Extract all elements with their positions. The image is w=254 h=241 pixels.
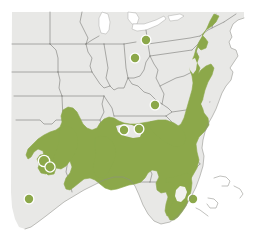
- range-map-figure: northern Ohiocentral Indianaeastern Kent…: [0, 0, 254, 241]
- range-map-canvas: northern Ohiocentral Indianaeastern Kent…: [0, 0, 254, 241]
- isolated-point-ohio-north: northern Ohio: [141, 35, 152, 46]
- point-marker: [25, 195, 33, 203]
- isolated-point-texas-hill-b: central Texas: [44, 161, 55, 172]
- isolated-point-tennessee-south: southern Tennessee: [119, 125, 130, 136]
- point-marker: [151, 101, 159, 109]
- isolated-point-kentucky-east: eastern Kentucky / Tennessee: [150, 100, 161, 111]
- isolated-point-indiana-central: central Indiana: [130, 53, 141, 64]
- point-marker: [142, 36, 150, 44]
- isolated-point-alabama-north: northern Alabama: [134, 124, 145, 135]
- point-marker: [131, 54, 139, 62]
- point-marker: [46, 163, 55, 172]
- isolated-point-florida-southeast: southeastern Florida: [188, 194, 199, 205]
- isolated-point-texas-coast: southern Texas coast: [24, 194, 35, 205]
- lake-michigan: [99, 12, 110, 34]
- point-marker: [135, 125, 143, 133]
- point-marker: [120, 126, 128, 134]
